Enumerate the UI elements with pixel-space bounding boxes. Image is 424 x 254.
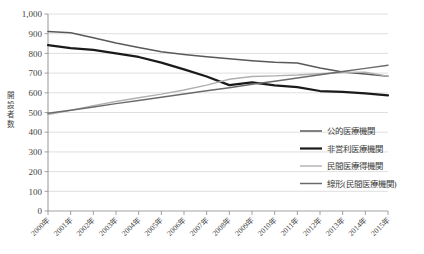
y-axis-tick-label: 900	[29, 29, 43, 39]
series-line-1	[48, 32, 388, 77]
x-axis-tick-label: 2010年	[255, 214, 278, 237]
series-line-4	[48, 65, 388, 113]
y-axis-tick-label: 400	[29, 127, 43, 137]
x-axis-tick-label: 2005年	[142, 214, 165, 237]
x-axis-tick-label: 2001年	[51, 214, 74, 237]
x-axis-tick-label: 2015年	[368, 214, 391, 237]
y-axis-title-char: 開	[7, 91, 14, 100]
legend-label-1: 公的医療機関	[327, 126, 375, 136]
series-line-3	[48, 72, 388, 115]
y-axis-tick-label: 300	[29, 147, 43, 157]
y-axis-tick-label: 600	[29, 88, 43, 98]
x-axis-tick-label: 2007年	[187, 214, 210, 237]
y-axis-title-char: 数	[7, 119, 15, 129]
y-axis-tick-label: 100	[29, 187, 43, 197]
x-axis-tick-label: 2003年	[96, 214, 119, 237]
legend-label-4: 線形(民間医療機関)	[327, 179, 397, 189]
y-axis-tick-label: 0	[38, 206, 43, 216]
x-axis-tick-label: 2012年	[300, 214, 323, 237]
x-axis-tick-label: 2002年	[74, 214, 97, 237]
legend-label-3: 民間医療得機関	[327, 161, 383, 171]
y-axis-tick-label: 700	[29, 68, 43, 78]
x-axis-tick-label: 2006年	[164, 214, 187, 237]
x-axis-tick-label: 2014年	[346, 214, 369, 237]
chart-container: 01002003004005006007008009001,0002000年20…	[0, 0, 424, 254]
y-axis-tick-label: 800	[29, 49, 43, 59]
y-axis-tick-label: 500	[29, 108, 43, 118]
x-axis-tick-label: 2011年	[278, 214, 301, 237]
x-axis-tick-label: 2008年	[210, 214, 233, 237]
y-axis-tick-label: 200	[29, 167, 43, 177]
y-axis-title-char: 者	[7, 110, 15, 119]
x-axis-tick-label: 2000年	[28, 214, 51, 237]
line-chart: 01002003004005006007008009001,0002000年20…	[0, 0, 424, 254]
x-axis-tick-label: 2013年	[323, 214, 346, 237]
x-axis-tick-label: 2004年	[119, 214, 142, 237]
legend-label-2: 非営利医療機関	[327, 144, 383, 154]
x-axis-tick-label: 2009年	[232, 214, 255, 237]
y-axis-title-char: 設	[7, 100, 15, 110]
y-axis-tick-label: 1,000	[22, 9, 43, 19]
